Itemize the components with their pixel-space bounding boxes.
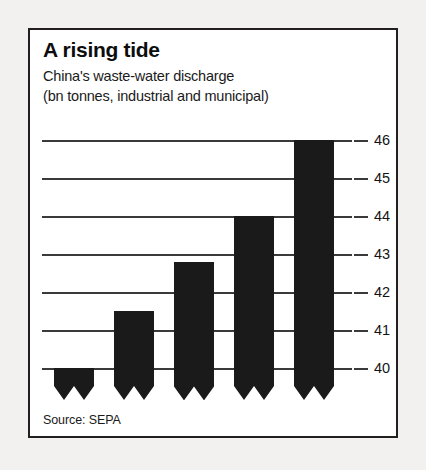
y-tick-mark (354, 254, 368, 256)
bar-2000 (114, 311, 154, 400)
y-tick-mark (354, 330, 368, 332)
y-tick-mark (354, 292, 368, 294)
y-tick-label: 40 (374, 361, 390, 376)
y-tick-label: 44 (374, 209, 390, 224)
y-tick-label: 45 (374, 171, 390, 186)
y-tick-label: 46 (374, 133, 390, 148)
plot-area: 40414243444546 19992000010203 (42, 140, 352, 368)
source-note: Source: SEPA (43, 413, 121, 427)
y-tick-mark (354, 178, 368, 180)
chart-subtitle-line-2: (bn tonnes, industrial and municipal) (43, 86, 386, 106)
bar-1999 (54, 368, 94, 400)
y-tick-mark (354, 140, 368, 142)
y-tick-label: 43 (374, 247, 390, 262)
chart-card: A rising tide China's waste-water discha… (28, 28, 398, 438)
bar-01 (174, 262, 214, 400)
bar-03 (294, 140, 334, 400)
y-tick-label: 41 (374, 323, 390, 338)
page-title: A rising tide (43, 38, 386, 61)
chart-header: A rising tide China's waste-water discha… (43, 38, 386, 106)
y-tick-label: 42 (374, 285, 390, 300)
y-tick-mark (354, 216, 368, 218)
y-tick-mark (354, 368, 368, 370)
chart-subtitle-line-1: China's waste-water discharge (43, 66, 386, 86)
bar-02 (234, 216, 274, 400)
bars-layer (42, 140, 352, 368)
